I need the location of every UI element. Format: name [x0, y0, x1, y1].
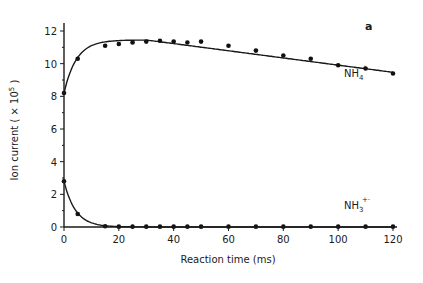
nh4-data-point — [103, 43, 108, 48]
nh4-data-point — [75, 56, 80, 61]
nh4-data-point — [226, 43, 231, 48]
nh4-data-point — [391, 71, 396, 76]
series-label-text: NH3 — [344, 200, 363, 214]
y-tick-label: 10 — [44, 59, 57, 70]
nh3-data-point — [103, 224, 108, 229]
nh4-data-point — [130, 40, 135, 45]
x-tick-label: 0 — [61, 234, 67, 245]
y-tick-label: 2 — [51, 189, 57, 200]
y-axis-title: Ion current ( × 105 ) — [8, 80, 20, 181]
nh4-data-point — [281, 53, 286, 58]
nh4-data-point — [171, 39, 176, 44]
nh4-data-point — [158, 39, 163, 44]
nh3-data-point — [75, 212, 80, 217]
nh4-data-point — [185, 40, 190, 45]
nh4-fit-curve — [64, 40, 393, 93]
nh4-data-point — [144, 39, 149, 44]
x-axis-title: Reaction time (ms) — [180, 254, 275, 265]
y-tick-label: 6 — [51, 124, 57, 135]
series-label-charge: + — [362, 64, 368, 72]
x-axis: 020406080100120 — [61, 227, 403, 245]
panel-label: a — [365, 20, 372, 33]
x-tick-label: 20 — [112, 234, 125, 245]
series-label-nh3: NH3+· — [344, 196, 370, 214]
x-tick-label: 80 — [277, 234, 290, 245]
ion-current-chart: 024681012 020406080100120 Ion current ( … — [0, 0, 423, 283]
y-tick-label: 12 — [44, 26, 57, 37]
nh4-data-point — [199, 39, 204, 44]
y-axis: 024681012 — [44, 23, 64, 233]
x-tick-label: 100 — [329, 234, 348, 245]
nh4-data-point — [254, 48, 259, 53]
series-label-text: NH4 — [344, 68, 364, 82]
x-tick-label: 60 — [222, 234, 235, 245]
nh4-data-point — [336, 63, 341, 68]
nh4-data-point — [117, 42, 122, 47]
y-tick-label: 0 — [51, 222, 57, 233]
nh4-data-point — [308, 56, 313, 61]
x-tick-label: 120 — [383, 234, 402, 245]
series-label-charge: +· — [362, 196, 370, 204]
y-tick-label: 4 — [51, 157, 57, 168]
y-tick-label: 8 — [51, 91, 57, 102]
x-tick-label: 40 — [167, 234, 180, 245]
